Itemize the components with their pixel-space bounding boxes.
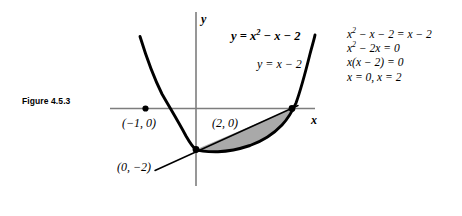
- equation-line-3: x(x − 2) = 0: [347, 55, 432, 69]
- x-axis-label: x: [311, 114, 317, 126]
- curve-parabola: [140, 35, 315, 152]
- point-marker-left: [142, 105, 148, 111]
- point-marker-vertex: [193, 146, 200, 153]
- equation-line-2: x2 − 2x = 0: [347, 41, 432, 55]
- worked-solution: x2 − x − 2 = x − 2 x2 − 2x = 0 x(x − 2) …: [347, 27, 432, 84]
- point-marker-right: [289, 105, 296, 112]
- curve-label-parabola: y = x2 − x − 2: [231, 30, 301, 43]
- curve-label-line: y = x − 2: [257, 58, 302, 70]
- figure-caption: Figure 4.5.3: [22, 96, 70, 106]
- y-axis-label: y: [201, 13, 206, 25]
- equation-line-4: x = 0, x = 2: [347, 70, 432, 84]
- point-label-two-zero: (2, 0): [212, 117, 238, 129]
- figure-container: Figure 4.5.3 y = x2 − x − 2 y = x − 2 y …: [0, 0, 462, 216]
- equation-line-1: x2 − x − 2 = x − 2: [347, 27, 432, 41]
- plot-area: y = x2 − x − 2 y = x − 2 y x (−1, 0) (2,…: [100, 4, 332, 209]
- point-label-minus-one-zero: (−1, 0): [122, 117, 156, 129]
- point-label-zero-minus-two: (0, −2): [117, 161, 151, 173]
